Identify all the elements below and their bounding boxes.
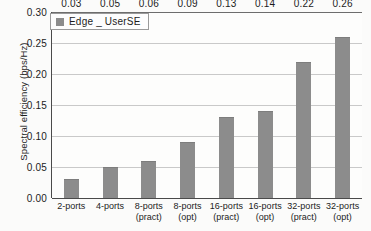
bar-slot: 0.03 <box>52 12 91 198</box>
bar: 0.03 <box>64 179 79 198</box>
x-axis-tick-label: 2-ports <box>52 201 91 223</box>
x-axis-tick-label: 8-ports(pract) <box>130 201 169 223</box>
y-axis-tick-label: 0.05 <box>27 162 47 173</box>
bar: 0.26 <box>335 37 350 198</box>
bar-value-label: 0.26 <box>332 0 352 9</box>
bar-series-edge-userse: 0.030.050.060.090.130.140.220.26 <box>52 12 362 198</box>
bar-slot: 0.06 <box>130 12 169 198</box>
y-axis-tick-label: 0.30 <box>27 7 47 18</box>
gridline <box>52 198 362 199</box>
bar-value-label: 0.03 <box>61 0 81 9</box>
x-axis-tick-label: 32-ports(pract) <box>285 201 324 223</box>
bar-value-label: 0.14 <box>255 0 275 9</box>
bar: 0.22 <box>296 62 311 198</box>
x-axis-tick-label: 4-ports <box>91 201 130 223</box>
bar: 0.14 <box>258 111 273 198</box>
bar-slot: 0.13 <box>207 12 246 198</box>
plot-area: 0.000.050.100.150.200.250.30 0.030.050.0… <box>52 12 362 198</box>
y-axis-tick-label: 0.00 <box>27 193 47 204</box>
bar: 0.09 <box>180 142 195 198</box>
bar-slot: 0.26 <box>323 12 362 198</box>
bar-slot: 0.22 <box>285 12 324 198</box>
x-axis-tick-label: 16-ports(pract) <box>207 201 246 223</box>
x-axis-tick-label: 8-ports(opt) <box>168 201 207 223</box>
bar-value-label: 0.06 <box>139 0 159 9</box>
x-axis-tick-label: 32-ports(opt) <box>323 201 362 223</box>
legend-swatch-icon <box>56 18 64 26</box>
bar: 0.13 <box>219 117 234 198</box>
x-axis-tick-labels: 2-ports4-ports8-ports(pract)8-ports(opt)… <box>52 201 362 223</box>
bar-value-label: 0.13 <box>216 0 236 9</box>
bar-value-label: 0.09 <box>177 0 197 9</box>
legend-label: Edge _ UserSE <box>69 16 141 27</box>
legend: Edge _ UserSE <box>50 13 149 30</box>
bar: 0.05 <box>103 167 118 198</box>
bar-value-label: 0.22 <box>294 0 314 9</box>
x-axis-tick-label: 16-ports(opt) <box>246 201 285 223</box>
bar-chart: Spectral efficiency (bps/Hz) 0.000.050.1… <box>0 0 371 231</box>
bar-slot: 0.14 <box>246 12 285 198</box>
y-axis-tick-label: 0.20 <box>27 69 47 80</box>
bar: 0.06 <box>141 161 156 198</box>
y-axis-tick-label: 0.10 <box>27 131 47 142</box>
y-axis-tick-label: 0.15 <box>27 100 47 111</box>
bar-value-label: 0.05 <box>100 0 120 9</box>
y-axis-tick-label: 0.25 <box>27 38 47 49</box>
bar-slot: 0.09 <box>168 12 207 198</box>
bar-slot: 0.05 <box>91 12 130 198</box>
